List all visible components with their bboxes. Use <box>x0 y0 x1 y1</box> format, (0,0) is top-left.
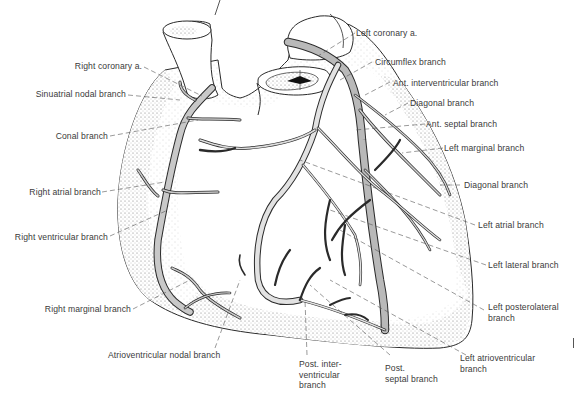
label-diagonal-branch-1: Diagonal branch <box>410 98 474 109</box>
coronary-artery-diagram: Right coronary a. Sinuatrial nodal branc… <box>0 0 575 397</box>
label-diagonal-branch-2: Diagonal branch <box>464 180 528 191</box>
label-left-posterolateral-branch: Left posterolateral branch <box>488 302 559 323</box>
label-post-septal-branch: Post. septal branch <box>385 363 438 384</box>
label-sinuatrial-nodal-branch: Sinuatrial nodal branch <box>12 89 126 100</box>
label-right-coronary-artery: Right coronary a. <box>40 61 142 72</box>
label-ant-septal-branch: Ant. septal branch <box>426 119 497 130</box>
label-left-atrial-branch: Left atrial branch <box>478 220 544 231</box>
label-post-interventricular-branch: Post. inter- ventricular branch <box>299 359 342 391</box>
label-left-coronary-artery: Left coronary a. <box>356 28 417 39</box>
label-atrioventricular-nodal-branch: Atrioventricular nodal branch <box>108 350 220 361</box>
label-right-marginal-branch: Right marginal branch <box>30 304 131 315</box>
label-left-marginal-branch: Left marginal branch <box>444 143 524 154</box>
label-circumflex-branch: Circumflex branch <box>375 57 446 68</box>
label-right-atrial-branch: Right atrial branch <box>8 187 101 198</box>
heart-illustration <box>0 0 575 397</box>
label-right-ventricular-branch: Right ventricular branch <box>4 232 108 243</box>
edge-mark <box>573 338 574 348</box>
label-left-atrioventricular-branch: Left atrioventricular branch <box>460 353 535 374</box>
label-ant-interventricular-branch: Ant. interventricular branch <box>393 78 499 89</box>
label-left-lateral-branch: Left lateral branch <box>488 260 559 271</box>
label-conal-branch: Conal branch <box>30 131 108 142</box>
